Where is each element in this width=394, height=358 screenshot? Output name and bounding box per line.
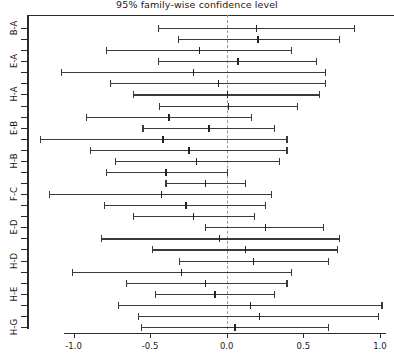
interval-upper-cap [291,269,292,276]
confidence-interval-row [0,79,394,88]
interval-upper-cap [381,302,382,309]
confidence-interval-row [0,68,394,77]
interval-lower-cap [101,235,102,242]
interval-center-marker [161,191,162,198]
interval-lower-cap [72,269,73,276]
x-tick-label: -1.0 [65,341,82,351]
interval-center-marker [168,114,169,121]
interval-center-marker [265,224,266,231]
interval-lower-cap [138,313,139,320]
interval-lower-cap [110,80,111,87]
interval-lower-cap [106,169,107,176]
interval-upper-cap [254,213,255,220]
interval-lower-cap [155,291,156,298]
interval-upper-cap [265,202,266,209]
confidence-interval-row [0,146,394,155]
interval-center-marker [199,47,200,54]
interval-center-marker [253,258,254,265]
x-tick [227,333,228,338]
interval-center-marker [227,91,228,98]
interval-lower-cap [179,258,180,265]
interval-center-marker [237,58,238,65]
interval-lower-cap [165,180,166,187]
confidence-interval-row [0,268,394,277]
interval-upper-cap [251,114,252,121]
confidence-interval-row [0,102,394,111]
interval-lower-cap [133,213,134,220]
interval-center-marker [208,125,209,132]
interval-center-marker [218,80,219,87]
confidence-interval-row [0,201,394,210]
interval-lower-cap [158,25,159,32]
confidence-interval-row [0,245,394,254]
interval-lower-cap [141,324,142,331]
x-tick-label: -0.5 [142,341,159,351]
interval-upper-cap [339,36,340,43]
interval-center-marker [205,280,206,287]
interval-center-marker [193,213,194,220]
confidence-interval-row [0,257,394,266]
x-tick [380,333,381,338]
interval-upper-cap [274,291,275,298]
interval-upper-cap [297,103,298,110]
interval-upper-cap [328,258,329,265]
interval-lower-cap [106,47,107,54]
interval-center-marker [256,25,257,32]
confidence-interval-row [0,113,394,122]
interval-center-marker [165,169,166,176]
confidence-interval-row [0,179,394,188]
interval-lower-cap [159,103,160,110]
chart-title: 95% family-wise confidence level [0,0,394,10]
interval-upper-cap [323,224,324,231]
interval-upper-cap [271,191,272,198]
x-tick [74,333,75,338]
interval-center-marker [250,302,251,309]
interval-center-marker [259,313,260,320]
interval-upper-cap [378,313,379,320]
confidence-interval-row [0,90,394,99]
interval-lower-cap [158,58,159,65]
confidence-interval-row [0,223,394,232]
confidence-interval-row [0,301,394,310]
confidence-interval-row [0,279,394,288]
interval-lower-cap [86,114,87,121]
interval-lower-cap [133,91,134,98]
interval-center-marker [245,246,246,253]
confidence-interval-row [0,323,394,332]
interval-lower-cap [126,280,127,287]
confidence-interval-row [0,312,394,321]
confidence-interval-row [0,24,394,33]
x-tick-label: 0.5 [297,341,311,351]
interval-center-marker [185,202,186,209]
interval-lower-cap [40,136,41,143]
interval-upper-cap [325,80,326,87]
interval-upper-cap [286,136,287,143]
interval-upper-cap [286,280,287,287]
interval-upper-cap [316,58,317,65]
confidence-interval-row [0,212,394,221]
interval-upper-cap [325,69,326,76]
interval-upper-cap [328,324,329,331]
interval-upper-cap [354,25,355,32]
interval-lower-cap [142,125,143,132]
interval-upper-cap [274,125,275,132]
interval-center-marker [228,103,229,110]
interval-center-marker [181,269,182,276]
interval-center-marker [193,69,194,76]
interval-upper-cap [319,91,320,98]
interval-upper-cap [245,180,246,187]
confidence-interval-row [0,190,394,199]
confidence-interval-row [0,290,394,299]
x-tick-label: 0.0 [220,341,234,351]
interval-center-marker [219,235,220,242]
interval-lower-cap [104,202,105,209]
interval-upper-cap [339,235,340,242]
interval-center-marker [214,291,215,298]
interval-lower-cap [115,158,116,165]
interval-lower-cap [152,246,153,253]
interval-lower-cap [178,36,179,43]
interval-center-marker [188,147,189,154]
interval-lower-cap [90,147,91,154]
x-tick-label: 1.0 [373,341,387,351]
interval-lower-cap [118,302,119,309]
